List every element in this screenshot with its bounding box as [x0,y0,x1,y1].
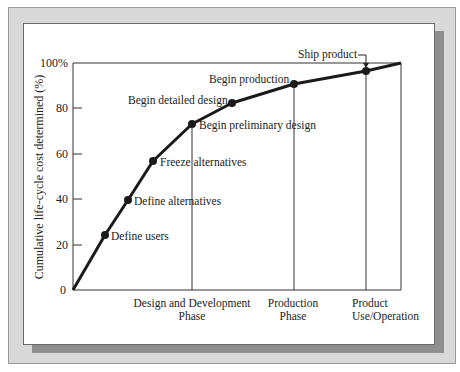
plot-frame [73,63,401,290]
phase-design-line1: Design and Development [134,297,252,310]
phase-use-line1: Product [352,297,389,309]
data-points [101,67,370,239]
label-ship-product: Ship product [298,48,358,61]
label-define-users: Define users [111,230,169,242]
point-define-users [101,231,109,239]
y-axis-label: Cumulative life-cycle cost determined (%… [32,75,46,280]
point-freeze-alternatives [149,157,157,165]
y-tick-40: 40 [56,192,68,206]
y-tick-100: 100% [40,56,68,70]
phase-design-line2: Phase [179,310,206,322]
y-tick-20: 20 [56,238,68,252]
y-axis-ticks [73,108,82,245]
point-begin-detailed-design [228,99,236,107]
life-cycle-cost-chart: 100% 80 60 40 20 0 Cumulative life-cycle… [0,0,460,372]
cost-curve [73,63,401,290]
label-freeze-alternatives: Freeze alternatives [160,156,247,168]
ship-product-arrow-icon [363,63,369,68]
point-begin-production [290,80,298,88]
point-define-alternatives [124,196,132,204]
phase-production-line2: Phase [280,310,307,322]
point-begin-preliminary-design [188,120,196,128]
label-begin-detailed-design: Begin detailed design [128,94,228,107]
phase-production-line1: Production [268,297,319,309]
label-begin-preliminary-design: Begin preliminary design [199,119,316,132]
label-define-alternatives: Define alternatives [134,195,222,207]
y-tick-60: 60 [56,147,68,161]
y-tick-80: 80 [56,101,68,115]
label-begin-production: Begin production [209,73,289,86]
phase-use-line2: Use/Operation [352,310,419,323]
y-tick-0: 0 [60,283,66,297]
point-ship-product [362,67,370,75]
